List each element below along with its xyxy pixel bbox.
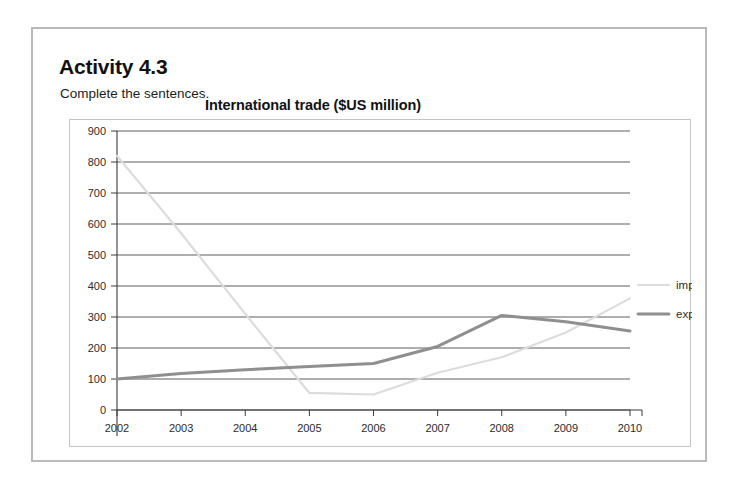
y-tick-label: 500 — [88, 249, 106, 261]
y-tick-label: 800 — [88, 156, 106, 168]
x-tick-label: 2002 — [105, 422, 129, 434]
y-tick-label: 200 — [88, 342, 106, 354]
legend-label-exports: exports — [676, 308, 692, 320]
y-tick-label: 600 — [88, 218, 106, 230]
y-tick-label: 400 — [88, 280, 106, 292]
x-axis-tick-labels: 200220032004200520062007200820092010 — [105, 422, 642, 434]
chart-legend: importsexports — [638, 279, 692, 320]
x-tick-label: 2005 — [297, 422, 321, 434]
y-tick-label: 300 — [88, 311, 106, 323]
gridlines — [117, 131, 630, 410]
chart-title: International trade ($US million) — [33, 97, 593, 113]
activity-heading: Activity 4.3 — [59, 55, 168, 79]
series-line-imports — [117, 156, 630, 395]
y-tick-label: 700 — [88, 187, 106, 199]
x-tick-label: 2003 — [169, 422, 193, 434]
y-tick-label: 0 — [100, 404, 106, 416]
x-tick-label: 2009 — [554, 422, 578, 434]
legend-label-imports: imports — [676, 279, 692, 291]
x-tick-label: 2006 — [361, 422, 385, 434]
x-tick-label: 2010 — [618, 422, 642, 434]
axes — [111, 131, 642, 436]
y-tick-label: 100 — [88, 373, 106, 385]
y-axis-tick-labels: 0100200300400500600700800900 — [88, 125, 106, 416]
x-tick-label: 2008 — [490, 422, 514, 434]
activity-box: Activity 4.3 Complete the sentences. Int… — [31, 27, 707, 462]
x-tick-label: 2004 — [233, 422, 257, 434]
series-line-exports — [117, 315, 630, 379]
x-tick-label: 2007 — [425, 422, 449, 434]
data-series — [117, 156, 630, 395]
chart-frame: 0100200300400500600700800900 20022003200… — [69, 119, 691, 447]
line-chart: 0100200300400500600700800900 20022003200… — [70, 120, 692, 448]
y-tick-label: 900 — [88, 125, 106, 137]
